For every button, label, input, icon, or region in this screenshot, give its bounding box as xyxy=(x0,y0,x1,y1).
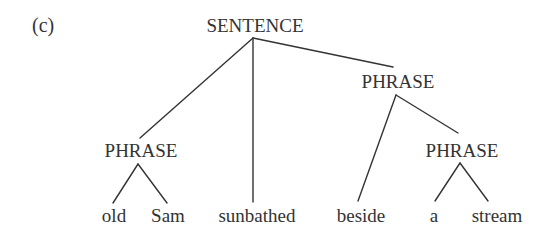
edge-left-phrase-to-sam xyxy=(138,164,167,203)
node-phrase-middle: PHRASE xyxy=(362,71,435,92)
edge-middle-phrase-to-beside xyxy=(358,95,396,201)
word-sam: Sam xyxy=(151,205,185,226)
edge-middle-phrase-to-right-phrase xyxy=(396,95,458,133)
word-stream: stream xyxy=(472,205,523,226)
syntax-tree-diagram: (c) SENTENCE PHRASE PHRASE PHRASE old Sa… xyxy=(0,0,555,239)
node-phrase-right: PHRASE xyxy=(426,140,499,161)
category-nodes: SENTENCE PHRASE PHRASE PHRASE xyxy=(105,15,499,161)
edge-right-phrase-to-a xyxy=(435,163,460,201)
node-sentence: SENTENCE xyxy=(206,15,303,36)
word-old: old xyxy=(102,205,127,226)
tree-edges xyxy=(113,38,488,203)
node-phrase-left: PHRASE xyxy=(105,140,178,161)
word-beside: beside xyxy=(337,205,386,226)
edge-right-phrase-to-stream xyxy=(460,163,488,201)
word-a: a xyxy=(430,205,439,226)
edge-sentence-to-left-phrase xyxy=(140,38,253,138)
word-sunbathed: sunbathed xyxy=(218,205,296,226)
edge-sentence-to-middle-phrase xyxy=(253,38,393,67)
edge-left-phrase-to-old xyxy=(113,164,138,203)
panel-label: (c) xyxy=(32,14,54,37)
leaf-words: old Sam sunbathed beside a stream xyxy=(102,205,523,226)
